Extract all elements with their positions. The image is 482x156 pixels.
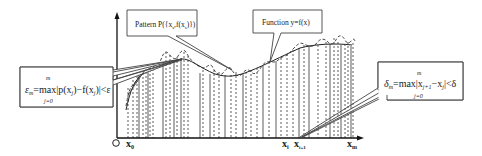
delta-callout: m δm=max|xj+1−xj|<δ j=0 — [300, 62, 463, 138]
label-xi1: xi+1 — [294, 138, 306, 150]
dashed-interval-lines — [128, 38, 353, 138]
delta-bottom-index: j=0 — [413, 93, 423, 99]
axis-labels: x0 xi xi+1 xm — [113, 138, 357, 150]
pattern-callout-text: Pattern P({xs,f(xs)}) — [135, 20, 196, 30]
approximation-diagram: x0 xi xi+1 xm Pattern P({xs,f(xs)}) Func… — [0, 0, 482, 156]
delta-top-index: m — [417, 70, 422, 76]
function-callout-text: Function y=f(x) — [262, 18, 310, 27]
x-axis-arrow-icon — [357, 136, 364, 141]
epsilon-callout: m εm=max|p(xj)−f(xj)|<ε j=0 — [20, 59, 182, 107]
pattern-curve — [126, 36, 355, 106]
label-x0: x0 — [126, 138, 134, 150]
label-xm: xm — [347, 138, 357, 150]
y-axis-arrow-icon — [115, 12, 120, 19]
epsilon-bottom-index: j=0 — [43, 98, 53, 104]
epsilon-formula: εm=max|p(xj)−f(xj)|<ε — [25, 84, 111, 96]
label-xi: xi — [282, 138, 289, 150]
delta-formula: δm=max|xj+1−xj|<δ — [384, 78, 457, 90]
origin-circle-icon — [113, 140, 120, 147]
epsilon-top-index: m — [46, 75, 51, 81]
solid-sample-lines — [139, 44, 351, 138]
